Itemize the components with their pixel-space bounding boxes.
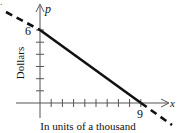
chart-canvas: 6 9 p x In units of a thousand Dollars . (0, 0, 177, 133)
dashed-extension-left (6, 12, 40, 30)
corner-mark: . (0, 0, 2, 7)
demand-line (40, 30, 141, 103)
x-axis-title: In units of a thousand (40, 120, 136, 132)
x-intercept-label: 9 (137, 107, 143, 121)
y-intercept-label: 6 (25, 24, 31, 38)
x-axis-symbol: x (169, 97, 175, 109)
dashed-extension-right (141, 103, 172, 125)
y-axis-title: Dollars (14, 47, 26, 79)
y-axis-symbol: p (44, 2, 51, 16)
